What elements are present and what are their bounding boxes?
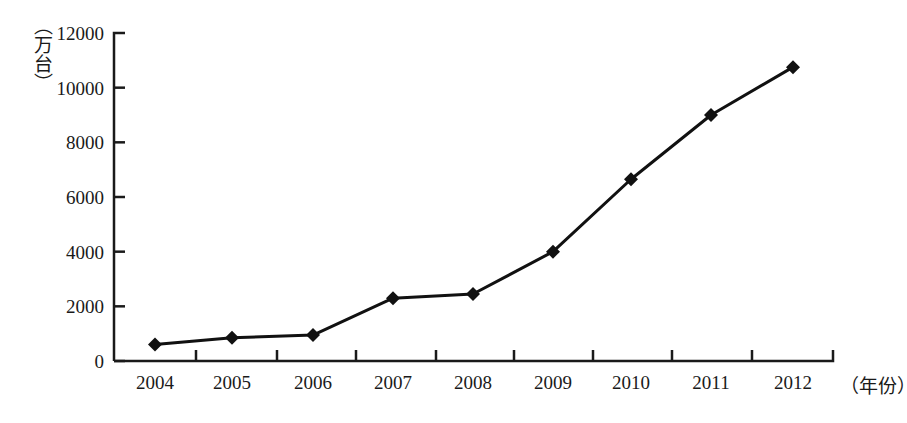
data-point-marker <box>306 328 320 342</box>
y-tick-label: 0 <box>95 351 105 372</box>
y-tick-label: 12000 <box>57 23 105 44</box>
data-point-marker <box>225 331 239 345</box>
data-point-marker <box>786 60 800 74</box>
x-tick-label: 2005 <box>213 372 251 393</box>
data-point-markers <box>148 60 800 351</box>
y-tick-label: 6000 <box>66 187 104 208</box>
data-series-line <box>155 67 793 344</box>
x-tick-label: 2008 <box>454 372 492 393</box>
x-axis-tick-labels: 200420052006200720082009201020112012 <box>136 372 812 393</box>
data-point-marker <box>466 287 480 301</box>
y-axis-tick-labels: 020004000600080001000012000 <box>57 23 105 372</box>
data-point-marker <box>386 291 400 305</box>
x-tick-label: 2011 <box>692 372 729 393</box>
x-tick-label: 2010 <box>612 372 650 393</box>
y-tick-label: 4000 <box>66 242 104 263</box>
x-tick-label: 2012 <box>774 372 812 393</box>
data-point-marker <box>148 338 162 352</box>
line-chart: （万台） （年份） 020004000600080001000012000 20… <box>0 0 907 423</box>
x-axis-tick-marks <box>196 350 752 361</box>
x-axis-line <box>114 350 833 361</box>
chart-canvas: 020004000600080001000012000 200420052006… <box>0 0 907 423</box>
x-tick-label: 2004 <box>136 372 175 393</box>
y-tick-label: 8000 <box>66 132 104 153</box>
y-axis-tick-marks <box>114 88 125 361</box>
y-tick-label: 10000 <box>57 78 105 99</box>
y-tick-label: 2000 <box>66 296 104 317</box>
x-tick-label: 2007 <box>374 372 412 393</box>
x-tick-label: 2009 <box>534 372 572 393</box>
x-tick-label: 2006 <box>294 372 332 393</box>
